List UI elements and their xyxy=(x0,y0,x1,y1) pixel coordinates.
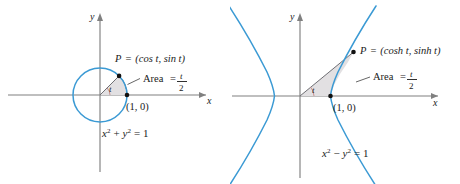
area-numerator-circle: t xyxy=(180,71,183,81)
area-denominator-hyperbola: 2 xyxy=(409,81,414,91)
p-coords-hyperbola: (cosh t, sinh t) xyxy=(380,45,441,57)
p-equals-hyperbola: = xyxy=(370,45,376,56)
x-axis-label-hyperbola: x xyxy=(432,97,438,108)
eq-exp1-hyperbola: 2 xyxy=(327,147,331,155)
point-p-circle xyxy=(117,74,122,79)
y-axis-label-circle: y xyxy=(89,11,95,22)
svg-text:P=(cos t, sin t): P=(cos t, sin t) xyxy=(114,53,185,65)
area-numerator-hyperbola: t xyxy=(410,69,413,79)
eq-rhs-hyperbola: = 1 xyxy=(354,147,368,159)
area-label-circle: Area = t 2 xyxy=(143,71,187,93)
eq-rhs-circle: = 1 xyxy=(134,127,148,139)
svg-text:x2−y2= 1: x2−y2= 1 xyxy=(321,147,368,159)
area-leader-circle xyxy=(128,79,141,85)
area-label-hyperbola: Area = t 2 xyxy=(373,69,417,91)
p-symbol-circle: P xyxy=(114,53,122,64)
point-one-zero-hyperbola xyxy=(328,94,333,99)
point-p-hyperbola xyxy=(351,50,356,55)
p-coords-circle: (cos t, sin t) xyxy=(135,53,185,65)
point-one-zero-circle xyxy=(125,93,130,98)
point-p-label-circle: P=(cos t, sin t) xyxy=(114,53,185,65)
point-p-label-hyperbola: P=(cosh t, sinh t) xyxy=(359,45,441,57)
equation-hyperbola: x2−y2= 1 xyxy=(321,147,368,159)
circle-panel: x y P=(cos t, sin t) Area = t 2 t (1, 0)… xyxy=(0,0,230,184)
sector-shading-circle xyxy=(100,76,127,95)
area-equals-hyperbola: = xyxy=(400,71,406,82)
eq-op-hyperbola: − xyxy=(333,147,339,159)
svg-text:x2+y2= 1: x2+y2= 1 xyxy=(101,127,148,139)
svg-text:P=(cosh t, sinh t): P=(cosh t, sinh t) xyxy=(359,45,441,57)
eq-exp2-circle: 2 xyxy=(128,127,132,135)
x-axis-label-circle: x xyxy=(206,95,212,106)
area-word-circle: Area xyxy=(143,73,164,84)
hyperbola-panel: x y P=(cosh t, sinh t) Area = t 2 t (1, … xyxy=(230,0,460,184)
equation-circle: x2+y2= 1 xyxy=(101,127,148,139)
area-equals-circle: = xyxy=(170,73,176,84)
p-equals-circle: = xyxy=(125,53,131,64)
hyperbola-left-branch xyxy=(230,6,275,184)
math-figure-container: x y P=(cos t, sin t) Area = t 2 t (1, 0)… xyxy=(0,0,460,184)
area-word-hyperbola: Area xyxy=(373,71,394,82)
x-axis-hyperbola xyxy=(232,93,438,99)
y-axis-label-hyperbola: y xyxy=(289,11,295,22)
vertex-label-circle: (1, 0) xyxy=(126,101,149,113)
vertex-label-hyperbola: (1, 0) xyxy=(333,102,356,114)
eq-exp1-circle: 2 xyxy=(107,127,111,135)
eq-exp2-hyperbola: 2 xyxy=(348,147,352,155)
area-denominator-circle: 2 xyxy=(179,83,184,93)
p-symbol-hyperbola: P xyxy=(359,45,367,56)
eq-op-circle: + xyxy=(113,127,119,139)
area-leader-hyperbola xyxy=(356,77,370,82)
